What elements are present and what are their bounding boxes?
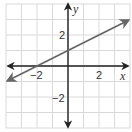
- x-tick-label-neg2: −2: [30, 69, 43, 81]
- x-tick-label-2: 2: [96, 69, 102, 81]
- coordinate-plane: −2 2 2 −2 y x: [0, 0, 132, 132]
- y-tick-label-neg2: −2: [52, 92, 65, 104]
- y-axis-label: y: [72, 2, 79, 16]
- x-axis-label: x: [119, 69, 126, 83]
- y-tick-label-2: 2: [59, 29, 65, 41]
